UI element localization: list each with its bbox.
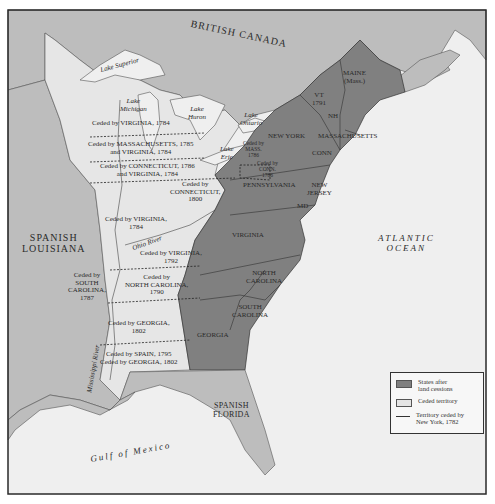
label-spanish-louisiana: SPANISH LOUISIANA xyxy=(22,232,85,254)
label-cession-nc-1790: Ceded by NORTH CAROLINA, 1790 xyxy=(125,274,188,297)
cession-5-line2: 1792 xyxy=(140,258,202,266)
label-massachusetts: MASSACHUSETTS xyxy=(318,133,378,141)
label-maryland: MD xyxy=(297,203,308,211)
label-maine-2: (Mass.) xyxy=(343,78,366,86)
label-new-jersey: NEW JERSEY xyxy=(307,182,332,197)
label-north-carolina: NORTH CAROLINA xyxy=(246,270,282,285)
label-pennsylvania: PENNSYLVANIA xyxy=(243,182,296,190)
label-ceded-conn-3: 1786 xyxy=(257,172,278,178)
cession-9-line2: Ceded by GEORGIA, 1802 xyxy=(100,359,177,367)
legend-item-states: States after land cessions xyxy=(396,379,452,393)
legend-label-states: States after land cessions xyxy=(418,379,452,393)
label-vermont: VT 1791 xyxy=(312,92,326,107)
legend-swatch-ceded xyxy=(396,399,412,407)
label-ceded-by-mass: Ceded by MASS. 1786 xyxy=(243,140,264,158)
label-cession-conn-1786: Ceded by CONNECTICUT, 1786 and VIRGINIA,… xyxy=(100,163,195,178)
cession-1-line2: and VIRGINIA, 1784 xyxy=(88,149,193,157)
label-lake-huron-2: Huron xyxy=(188,114,206,122)
label-cession-conn-1800: Ceded by CONNECTICUT, 1800 xyxy=(170,181,221,204)
label-lake-huron: Lake Huron xyxy=(188,106,206,121)
legend-label-ceded: Ceded territory xyxy=(418,398,458,405)
label-spanish-louisiana-line2: LOUISIANA xyxy=(22,243,85,254)
label-ocean: OCEAN xyxy=(378,244,435,254)
label-virginia: VIRGINIA xyxy=(232,232,264,240)
legend-swatch-states xyxy=(396,380,412,388)
label-ceded-by-conn: Ceded by CONN. 1786 xyxy=(257,160,278,178)
cession-0-line1: Ceded by VIRGINIA, 1784 xyxy=(92,120,170,128)
label-cession-georgia-1802: Ceded by GEORGIA, 1802 xyxy=(108,320,170,335)
cession-7-line4: 1787 xyxy=(68,295,106,303)
label-cession-spain-1795: Ceded by SPAIN, 1795 Ceded by GEORGIA, 1… xyxy=(100,351,177,366)
legend-item-ny-territory: Territory ceded by New York, 1782 xyxy=(396,412,464,426)
legend-label-ny: Territory ceded by New York, 1782 xyxy=(416,412,464,426)
label-spanish-florida: SPANISH FLORIDA xyxy=(213,402,250,420)
legend-line-ny xyxy=(396,416,410,417)
label-south-carolina: SOUTH CAROLINA xyxy=(232,304,268,319)
label-lake-ontario: Lake Ontario xyxy=(240,112,262,127)
cession-3-line3: 1800 xyxy=(170,196,221,204)
map-legend: States after land cessions Ceded territo… xyxy=(390,372,484,434)
cession-4-line2: 1784 xyxy=(105,224,167,232)
label-new-york: NEW YORK xyxy=(268,133,305,141)
legend-ny-line2: New York, 1782 xyxy=(416,418,459,425)
label-spanish-louisiana-line1: SPANISH xyxy=(22,232,85,243)
label-ceded-mass-3: 1786 xyxy=(243,152,264,158)
label-cession-sc-1787: Ceded by SOUTH CAROLINA, 1787 xyxy=(68,272,106,303)
label-connecticut: CONN xyxy=(312,150,332,158)
label-lake-michigan: Lake Michigan xyxy=(120,98,147,113)
label-cession-mass-1785: Ceded by MASSACHUSETTS, 1785 and VIRGINI… xyxy=(88,141,193,156)
label-new-hampshire: NH xyxy=(328,113,338,121)
label-georgia: GEORGIA xyxy=(197,332,229,340)
legend-item-ceded: Ceded territory xyxy=(396,398,458,407)
label-nc-2: CAROLINA xyxy=(246,278,282,286)
legend-states-line2: land cessions xyxy=(418,385,452,392)
label-lake-erie: Lake Erie xyxy=(220,146,234,161)
label-maine: MAINE (Mass.) xyxy=(343,70,366,85)
label-cession-virginia-1784: Ceded by VIRGINIA, 1784 xyxy=(92,120,170,128)
label-cession-virginia-1792: Ceded by VIRGINIA, 1792 xyxy=(140,250,202,265)
label-vt-2: 1791 xyxy=(312,100,326,108)
label-lake-erie-2: Erie xyxy=(220,154,234,162)
label-sc-2: CAROLINA xyxy=(232,312,268,320)
label-cession-virginia-1784b: Ceded by VIRGINIA, 1784 xyxy=(105,216,167,231)
cession-2-line2: and VIRGINIA, 1784 xyxy=(100,171,195,179)
cession-6-line3: 1790 xyxy=(125,289,188,297)
label-nj-2: JERSEY xyxy=(307,190,332,198)
label-spanish-florida-line2: FLORIDA xyxy=(213,411,250,420)
cession-8-line2: 1802 xyxy=(108,328,170,336)
label-atlantic-ocean: ATLANTIC OCEAN xyxy=(378,234,435,254)
label-lake-ontario-2: Ontario xyxy=(240,120,262,128)
label-lake-michigan-2: Michigan xyxy=(120,106,147,114)
